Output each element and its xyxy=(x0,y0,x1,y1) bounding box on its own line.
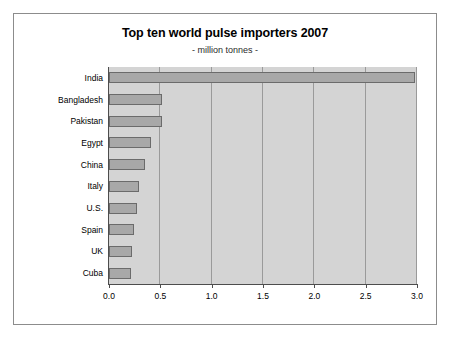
x-tick-mark xyxy=(366,284,367,288)
bar-row: Bangladesh xyxy=(109,89,417,111)
category-label: Bangladesh xyxy=(58,95,103,105)
category-label: China xyxy=(81,160,103,170)
x-tick-label: 0.0 xyxy=(103,291,115,301)
x-tick-label: 2.5 xyxy=(360,291,372,301)
bar-row: U.S. xyxy=(109,197,417,219)
category-label: Egypt xyxy=(81,138,103,148)
category-label: India xyxy=(85,73,103,83)
plot-area: IndiaBangladeshPakistanEgyptChinaItalyU.… xyxy=(108,67,417,285)
category-label: UK xyxy=(91,246,103,256)
bar xyxy=(109,224,134,235)
x-tick-mark xyxy=(160,284,161,288)
bar xyxy=(109,268,131,279)
category-label: Cuba xyxy=(83,268,103,278)
bar-row: Spain xyxy=(109,219,417,241)
chart-frame: Top ten world pulse importers 2007 - mil… xyxy=(13,13,437,325)
x-tick-mark xyxy=(314,284,315,288)
bar-row: Italy xyxy=(109,176,417,198)
bar xyxy=(109,181,139,192)
chart-subtitle: - million tonnes - xyxy=(14,45,436,55)
x-tick-label: 1.0 xyxy=(206,291,218,301)
x-tick-label: 3.0 xyxy=(411,291,423,301)
bar-row: Egypt xyxy=(109,132,417,154)
bar xyxy=(109,94,162,105)
bar-row: China xyxy=(109,154,417,176)
chart-title: Top ten world pulse importers 2007 xyxy=(14,26,436,40)
x-tick-mark xyxy=(417,284,418,288)
x-tick-label: 2.0 xyxy=(308,291,320,301)
category-label: Italy xyxy=(87,181,103,191)
x-tick-mark xyxy=(263,284,264,288)
bar-row: India xyxy=(109,67,417,89)
bar xyxy=(109,159,145,170)
x-tick-label: 0.5 xyxy=(154,291,166,301)
category-label: Spain xyxy=(81,225,103,235)
bar-row: Pakistan xyxy=(109,110,417,132)
bar-series: IndiaBangladeshPakistanEgyptChinaItalyU.… xyxy=(109,67,417,284)
bar xyxy=(109,203,137,214)
bar xyxy=(109,72,415,83)
bar xyxy=(109,116,162,127)
x-tick-mark xyxy=(212,284,213,288)
category-label: U.S. xyxy=(86,203,103,213)
bar xyxy=(109,137,151,148)
x-tick-mark xyxy=(109,284,110,288)
bar xyxy=(109,246,132,257)
bar-row: UK xyxy=(109,241,417,263)
bar-row: Cuba xyxy=(109,262,417,284)
category-label: Pakistan xyxy=(70,116,103,126)
x-tick-label: 1.5 xyxy=(257,291,269,301)
